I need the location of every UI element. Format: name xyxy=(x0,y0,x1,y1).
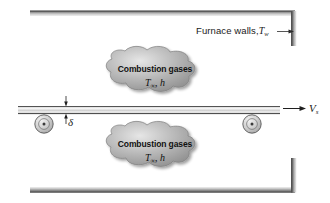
combustion-gas-cloud-top xyxy=(106,46,195,91)
furnace-top-wall xyxy=(30,11,295,17)
velocity-subscript: s xyxy=(316,108,319,116)
furnace-right-wall-upper xyxy=(291,11,297,46)
diagram-canvas xyxy=(0,0,330,203)
furnace-walls-subscript: w xyxy=(264,30,268,37)
sheet-velocity-arrow xyxy=(283,106,306,111)
furnace-walls-text: Furnace walls, xyxy=(196,25,259,36)
roller-right xyxy=(243,115,261,133)
roller-left xyxy=(35,115,53,133)
delta-symbol: δ xyxy=(68,116,73,128)
furnace-walls-label: Furnace walls,Tw xyxy=(196,26,269,38)
thickness-label: δ xyxy=(68,117,73,128)
velocity-label: Vs xyxy=(309,103,318,116)
furnace-sheet-diagram: Furnace walls,Tw Combustion gases T∞, h … xyxy=(0,0,330,203)
velocity-symbol: V xyxy=(309,102,316,114)
combustion-gas-cloud-bottom xyxy=(106,121,195,166)
furnace-bottom-wall xyxy=(30,187,295,193)
furnace-right-wall-lower xyxy=(291,158,297,193)
moving-metal-sheet xyxy=(18,107,280,114)
